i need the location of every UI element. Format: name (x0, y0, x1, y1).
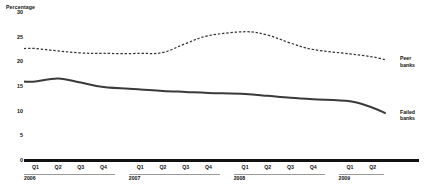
x-axis-tick-label: Q1 (242, 164, 249, 170)
x-axis-tick-label: Q2 (369, 164, 376, 170)
x-axis-tick-label: Q4 (205, 164, 212, 170)
x-axis-tick-label: Q3 (182, 164, 189, 170)
legend-entry-failed-banks: Failedbanks (400, 109, 415, 122)
x-axis-tick-label: Q2 (264, 164, 271, 170)
legend-entry-peer-banks: Peerbanks (400, 55, 415, 68)
x-axis-tick-label: Q4 (310, 164, 317, 170)
series-line-peer-banks (24, 32, 385, 60)
x-axis-year-group: 2007 (129, 174, 220, 184)
x-axis-year-group: 2008 (234, 174, 325, 184)
x-axis-tick-label: Q1 (346, 164, 353, 170)
x-axis-tick-label: Q3 (77, 164, 84, 170)
year-group-label: 2008 (234, 175, 246, 181)
x-axis-tick-label: Q2 (55, 164, 62, 170)
x-axis-year-group: 2006 (24, 174, 115, 184)
y-axis-tick-label: 20 (11, 58, 23, 64)
y-axis-tick-label: 5 (11, 132, 23, 138)
x-axis-tick-label: Q4 (100, 164, 107, 170)
x-axis-tick-label: Q1 (32, 164, 39, 170)
chart-container: Percentage 051015202530 Q1Q2Q3Q4Q1Q2Q3Q4… (0, 0, 429, 189)
x-axis-tick-label: Q1 (137, 164, 144, 170)
y-axis-tick-label: 30 (11, 9, 23, 15)
x-axis-quarter-labels: Q1Q2Q3Q4Q1Q2Q3Q4Q1Q2Q3Q4Q1Q2 (0, 164, 429, 172)
series-line-failed-banks (24, 79, 385, 113)
x-axis-tick-label: Q2 (159, 164, 166, 170)
x-axis-baseline (24, 159, 419, 162)
y-axis-tick-label: 0 (11, 157, 23, 163)
x-axis-year-group: 2009 (339, 174, 384, 184)
year-group-rule (24, 174, 115, 175)
y-axis-tick-label: 15 (11, 83, 23, 89)
year-group-label: 2006 (24, 175, 36, 181)
year-group-rule (234, 174, 325, 175)
year-group-label: 2009 (339, 175, 351, 181)
year-group-label: 2007 (129, 175, 141, 181)
y-axis-tick-label: 25 (11, 34, 23, 40)
plot-area (24, 12, 384, 160)
y-axis-tick-label: 10 (11, 108, 23, 114)
year-group-rule (129, 174, 220, 175)
legend-label-line2: banks (400, 115, 415, 121)
series-svg (24, 12, 384, 160)
x-axis-tick-label: Q3 (287, 164, 294, 170)
legend-label-line2: banks (400, 62, 415, 68)
